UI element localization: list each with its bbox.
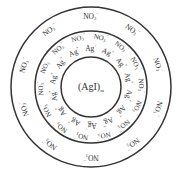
no3-ion: NO3− [35, 80, 45, 95]
no3-ion: NO3− [16, 56, 30, 74]
ag-ion: Ag+ [114, 104, 129, 120]
core-label: (AgI)m [78, 81, 104, 93]
ag-ion: Ag+ [47, 88, 59, 102]
ag-ion: Ag+ [53, 103, 68, 119]
ag-ion: Ag+ [47, 71, 59, 85]
ag-ion: Ag+ [114, 55, 129, 71]
ag-ion: Ag+ [123, 72, 135, 86]
ag-ion: Ag+ [123, 89, 135, 103]
ag-ion: Ag+ [67, 45, 82, 59]
ag-ion: Ag+ [85, 43, 97, 53]
micelle-svg: (AgI)m Ag+Ag+Ag+Ag+Ag+Ag+Ag+Ag+Ag+Ag+Ag+… [0, 0, 182, 173]
no3-ion: NO3− [151, 100, 165, 118]
no3-ion: NO3− [114, 118, 132, 135]
ag-ion: Ag+ [100, 115, 115, 129]
no3-ion: NO3− [83, 153, 99, 163]
no3-ion: NO3− [137, 78, 147, 93]
ag-ion: Ag+ [66, 115, 81, 129]
no3-ion: NO3− [151, 56, 165, 74]
ag-ion: Ag+ [53, 55, 68, 71]
ag-ion: Ag+ [101, 45, 116, 59]
no3-ion: NO3− [83, 11, 99, 21]
ag-ion: Ag+ [85, 121, 97, 131]
micelle-diagram: (AgI)m Ag+Ag+Ag+Ag+Ag+Ag+Ag+Ag+Ag+Ag+Ag+… [0, 0, 182, 173]
no3-ion: NO3− [16, 100, 30, 118]
no3-ion: NO3− [49, 39, 67, 56]
